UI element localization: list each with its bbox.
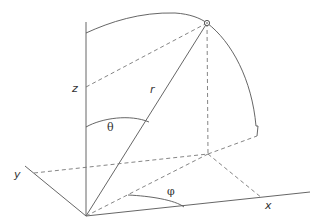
phi-label: φ [167, 185, 175, 198]
q-to-y-axis-dashed [34, 154, 208, 173]
p-to-z-axis-dashed [86, 23, 207, 87]
sphere-arc-upper [86, 13, 207, 33]
phi-arc [128, 195, 184, 207]
x-axis [86, 192, 310, 216]
sphere-arc-right [207, 23, 258, 136]
theta-arc [86, 118, 149, 127]
o-to-q-dashed [86, 154, 208, 216]
q-to-x-axis-dashed [208, 154, 262, 198]
p-vertical-projection-dashed [207, 23, 208, 154]
q-to-arc-end-dashed [208, 136, 257, 154]
radius-label: r [150, 83, 156, 96]
radius-line [86, 23, 207, 216]
point-p-center [206, 22, 208, 24]
y-axis [25, 166, 86, 216]
x-axis-label: x [264, 199, 272, 212]
theta-label: θ [107, 121, 114, 134]
spherical-coordinates-diagram: z y x r θ φ [0, 0, 319, 224]
y-axis-label: y [13, 168, 21, 181]
z-axis-label: z [71, 82, 78, 95]
